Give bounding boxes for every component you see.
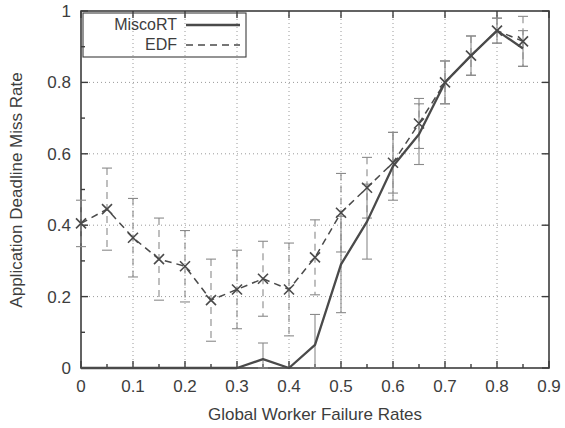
series-line-edf xyxy=(81,31,523,301)
x-tick-label: 0.6 xyxy=(381,377,405,396)
y-tick-label: 0 xyxy=(62,359,71,378)
y-axis-title: Application Deadline Miss Rate xyxy=(7,72,26,307)
x-axis-tick-labels: 00.10.20.30.40.50.60.70.80.9 xyxy=(76,377,561,396)
y-tick-label: 0.6 xyxy=(47,145,71,164)
legend-label-edf: EDF xyxy=(145,36,177,53)
error-bar xyxy=(258,343,268,368)
y-tick-label: 0.4 xyxy=(47,216,71,235)
x-tick-label: 0.9 xyxy=(537,377,561,396)
series-line-miscort xyxy=(81,31,523,368)
x-tick-label: 0.5 xyxy=(329,377,353,396)
x-axis-title: Global Worker Failure Rates xyxy=(208,405,422,424)
x-tick-label: 0.2 xyxy=(173,377,197,396)
x-tick-label: 0 xyxy=(76,377,85,396)
chart-figure: 00.10.20.30.40.50.60.70.80.9 00.20.40.60… xyxy=(0,0,565,428)
x-tick-label: 0.1 xyxy=(121,377,145,396)
x-tick-label: 0.7 xyxy=(433,377,457,396)
x-tick-label: 0.4 xyxy=(277,377,301,396)
x-tick-label: 0.8 xyxy=(485,377,509,396)
y-tick-label: 0.8 xyxy=(47,73,71,92)
y-axis-tick-labels: 00.20.40.60.81 xyxy=(47,2,71,378)
x-tick-label: 0.3 xyxy=(225,377,249,396)
y-tick-label: 0.2 xyxy=(47,288,71,307)
chart-legend: MiscoRT EDF xyxy=(83,13,246,57)
line-chart: 00.10.20.30.40.50.60.70.80.9 00.20.40.60… xyxy=(0,0,565,428)
error-bars xyxy=(76,16,528,368)
data-series xyxy=(81,31,523,368)
legend-label-miscort: MiscoRT xyxy=(114,16,177,33)
y-tick-label: 1 xyxy=(62,2,71,21)
